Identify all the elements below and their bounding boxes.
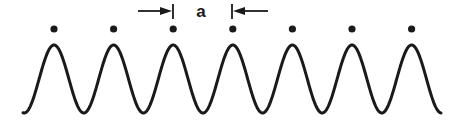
lattice-constant-label: a	[196, 2, 206, 21]
left-pointing-arrow-icon	[233, 7, 245, 15]
lattice-dot	[348, 25, 355, 32]
lattice-dot	[50, 25, 57, 32]
lattice-dot	[229, 25, 236, 32]
lattice-dot	[289, 25, 296, 32]
periodic-lattice-diagram: a	[0, 0, 464, 130]
lattice-spacing-marker: a	[138, 2, 268, 21]
right-pointing-arrow-icon	[160, 7, 172, 15]
diagram-canvas: a	[0, 0, 464, 130]
potential-wave	[23, 45, 441, 113]
lattice-dot	[170, 25, 177, 32]
lattice-dot	[110, 25, 117, 32]
lattice-dot	[408, 25, 415, 32]
lattice-dots	[50, 25, 415, 32]
